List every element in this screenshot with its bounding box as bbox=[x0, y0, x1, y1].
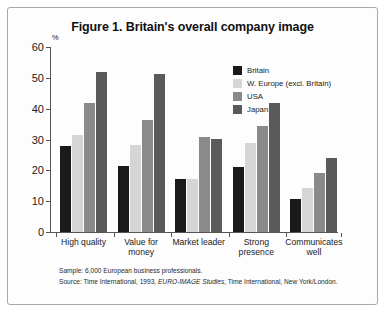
page-title: Figure 1. Britain's overall company imag… bbox=[8, 20, 377, 34]
y-axis-tick-label: 50 bbox=[32, 72, 44, 84]
chart-bar bbox=[257, 126, 268, 232]
sample-note: Sample: 6,000 European business professi… bbox=[59, 265, 338, 276]
legend-swatch-icon bbox=[233, 79, 242, 88]
chart-bar bbox=[233, 167, 244, 232]
legend-label: USA bbox=[247, 92, 263, 101]
y-axis-tick-label: 20 bbox=[32, 164, 44, 176]
x-axis-category-label: Communicates well bbox=[274, 237, 354, 257]
y-axis-tick bbox=[46, 140, 50, 141]
y-axis-tick bbox=[46, 232, 50, 233]
legend-swatch-icon bbox=[233, 92, 242, 101]
y-axis-unit-label: % bbox=[52, 33, 59, 42]
y-axis-tick-label: 30 bbox=[32, 134, 44, 146]
legend-label: Japan bbox=[247, 105, 268, 114]
legend-item: Britain bbox=[233, 64, 331, 77]
chart-bar bbox=[84, 103, 95, 233]
y-axis-tick bbox=[46, 47, 50, 48]
chart-bar bbox=[314, 173, 325, 233]
chart-bar bbox=[199, 137, 210, 232]
bar-group bbox=[175, 47, 222, 232]
chart-bar bbox=[72, 135, 83, 232]
source-suffix: , Time International, New York/London. bbox=[224, 278, 337, 285]
legend-item: W. Europe (excl. Britain) bbox=[233, 77, 331, 90]
chart-bar bbox=[326, 158, 337, 232]
chart-bar bbox=[96, 72, 107, 232]
chart-bar bbox=[154, 74, 165, 232]
figure-notes: Sample: 6,000 European business professi… bbox=[59, 265, 338, 287]
legend-item: Japan bbox=[233, 103, 331, 116]
chart-bar bbox=[60, 146, 71, 232]
chart-bar bbox=[130, 145, 141, 232]
legend-label: W. Europe (excl. Britain) bbox=[247, 79, 331, 88]
chart-bar bbox=[302, 188, 313, 232]
source-prefix: Source: Time International, 1993, bbox=[59, 278, 158, 285]
y-axis-tick-label: 10 bbox=[32, 195, 44, 207]
legend-swatch-icon bbox=[233, 105, 242, 114]
chart-bar bbox=[187, 179, 198, 232]
legend-swatch-icon bbox=[233, 66, 242, 75]
y-axis-tick bbox=[46, 78, 50, 79]
source-title: EURO-IMAGE Studies bbox=[158, 278, 224, 285]
legend-label: Britain bbox=[247, 66, 269, 75]
chart-bar bbox=[142, 120, 153, 232]
figure-frame: Figure 1. Britain's overall company imag… bbox=[7, 7, 378, 305]
chart-bar bbox=[245, 143, 256, 232]
chart-bar bbox=[211, 139, 222, 232]
chart-legend: BritainW. Europe (excl. Britain)USAJapan bbox=[233, 64, 331, 116]
y-axis-tick bbox=[46, 201, 50, 202]
y-axis-tick-label: 40 bbox=[32, 103, 44, 115]
chart-bar bbox=[290, 199, 301, 232]
y-axis-tick bbox=[46, 170, 50, 171]
bar-group bbox=[118, 47, 165, 232]
chart-bar bbox=[269, 103, 280, 233]
y-axis-line bbox=[50, 47, 51, 233]
bar-group bbox=[60, 47, 107, 232]
y-axis-tick bbox=[46, 109, 50, 110]
x-axis-line bbox=[50, 232, 338, 233]
chart-bar bbox=[175, 179, 186, 232]
y-axis-tick-label: 60 bbox=[32, 41, 44, 53]
source-note: Source: Time International, 1993, EURO-I… bbox=[59, 276, 338, 287]
chart-bar bbox=[118, 166, 129, 232]
legend-item: USA bbox=[233, 90, 331, 103]
